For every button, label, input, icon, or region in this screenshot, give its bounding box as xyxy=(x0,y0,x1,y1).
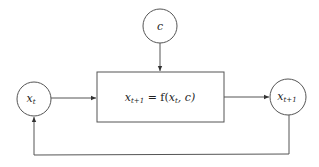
node-x-t: xt xyxy=(17,82,51,116)
function-box: xt+1 = f(xt, c) xyxy=(97,72,224,122)
feedback-diagram: c xt+1 = f(xt, c) xt xt+1 xyxy=(0,0,319,167)
node-c: c xyxy=(143,9,177,43)
node-x-t-plus-1: xt+1 xyxy=(270,79,306,115)
node-c-label: c xyxy=(157,20,163,33)
